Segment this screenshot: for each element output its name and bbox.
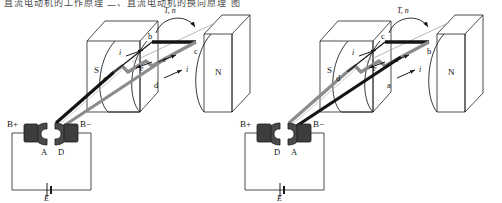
emf-label-top-left: e: [140, 64, 144, 73]
brush-label-negative-left: B−: [80, 119, 91, 129]
figure-canvas: 直流电动机的工作原理 二、直流电动机的换向原理 图 S: [0, 0, 502, 203]
current-arrow-bottom-right: [397, 70, 415, 78]
coil-endturn-right-left: [168, 42, 196, 57]
commutator-label-D-right: D: [274, 147, 280, 157]
rotation-arrow-left: [156, 18, 195, 33]
torque-speed-label-left: T, n: [164, 6, 176, 15]
pole-label-south-left: S: [94, 65, 99, 75]
rotation-arrow-right: [389, 18, 428, 33]
motor-diagram-svg: S N T, n: [0, 0, 502, 203]
lead-gray-left: [62, 57, 168, 127]
pole-label-north-right: N: [448, 67, 455, 77]
pole-label-north-left: N: [215, 67, 222, 77]
emf-label-bottom-right: e: [396, 55, 400, 64]
shaft-centerline-right: [293, 70, 355, 124]
magnet-pole-north-right: [429, 15, 483, 112]
brush-label-negative-right: B−: [313, 119, 324, 129]
commutator-label-A-right: A: [291, 147, 298, 157]
coil-node-b-right: b: [427, 46, 431, 56]
torque-speed-label-right: T, n: [397, 6, 409, 15]
brush-label-positive-right: B+: [240, 119, 251, 129]
panel-left: S N T, n: [7, 6, 250, 203]
commutator-label-D-left: D: [58, 147, 64, 157]
panel-right: S N T, n c b d a i: [240, 6, 483, 203]
magnet-pole-north-left: [196, 15, 250, 112]
source-label-right: E: [276, 194, 282, 203]
current-label-bottom-left: i: [186, 65, 188, 74]
brush-label-positive-left: B+: [7, 119, 18, 129]
pole-label-south-right: S: [327, 65, 332, 75]
coil-node-a-left: a: [103, 73, 107, 83]
commutator-left: [34, 123, 68, 145]
shaft-centerline-left: [60, 70, 122, 124]
current-label-top-right: i: [352, 48, 354, 57]
coil-node-c-left: c: [194, 46, 198, 56]
current-label-bottom-right: i: [419, 65, 421, 74]
coil-node-b-left: b: [148, 31, 152, 41]
coil-endturn-right-right: [401, 42, 429, 57]
coil-node-c-right: c: [381, 31, 385, 41]
emf-label-bottom-left: e: [163, 55, 167, 64]
current-arrow-bottom-left: [164, 70, 182, 78]
current-label-top-left: i: [119, 48, 121, 57]
commutator-right: [267, 123, 301, 145]
commutator-label-A-left: A: [41, 147, 48, 157]
emf-label-top-right: e: [373, 64, 377, 73]
coil-node-a-right: a: [387, 80, 391, 90]
source-label-left: E: [43, 194, 49, 203]
lead-dark-right: [295, 57, 401, 127]
